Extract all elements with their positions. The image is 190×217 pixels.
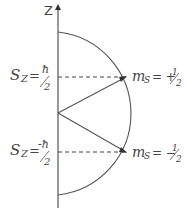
lower-ms-label: m S = − 1 2 (132, 143, 182, 164)
svg-text:S: S (144, 75, 150, 85)
svg-text:S: S (144, 151, 150, 161)
svg-text:-ħ: -ħ (38, 138, 49, 151)
svg-text:2: 2 (43, 81, 50, 92)
svg-text:ħ: ħ (42, 63, 49, 76)
spin-up-arrowhead-icon (119, 76, 127, 82)
svg-text:S: S (10, 66, 20, 84)
upper-ms-label: m S = + 1 2 (132, 67, 182, 88)
spin-cone-arc (58, 32, 131, 195)
upper-sz-label: S Z = ħ 2 (10, 63, 50, 92)
lower-sz-label: S Z = -ħ 2 (10, 138, 50, 167)
z-axis-label: Z (44, 3, 53, 18)
spin-up-vector (58, 77, 126, 113)
svg-text:Z: Z (20, 73, 29, 84)
svg-text:=: = (29, 68, 40, 83)
svg-text:Z: Z (20, 148, 29, 159)
svg-text:2: 2 (175, 78, 182, 88)
svg-text:S: S (10, 141, 20, 159)
spin-diagram: Z S Z = ħ 2 m S = + 1 2 S Z = -ħ 2 m S =… (0, 0, 190, 217)
spin-down-vector (58, 113, 126, 152)
svg-text:2: 2 (175, 154, 182, 164)
z-axis-arrow-icon (55, 4, 61, 10)
svg-text:2: 2 (43, 156, 50, 167)
